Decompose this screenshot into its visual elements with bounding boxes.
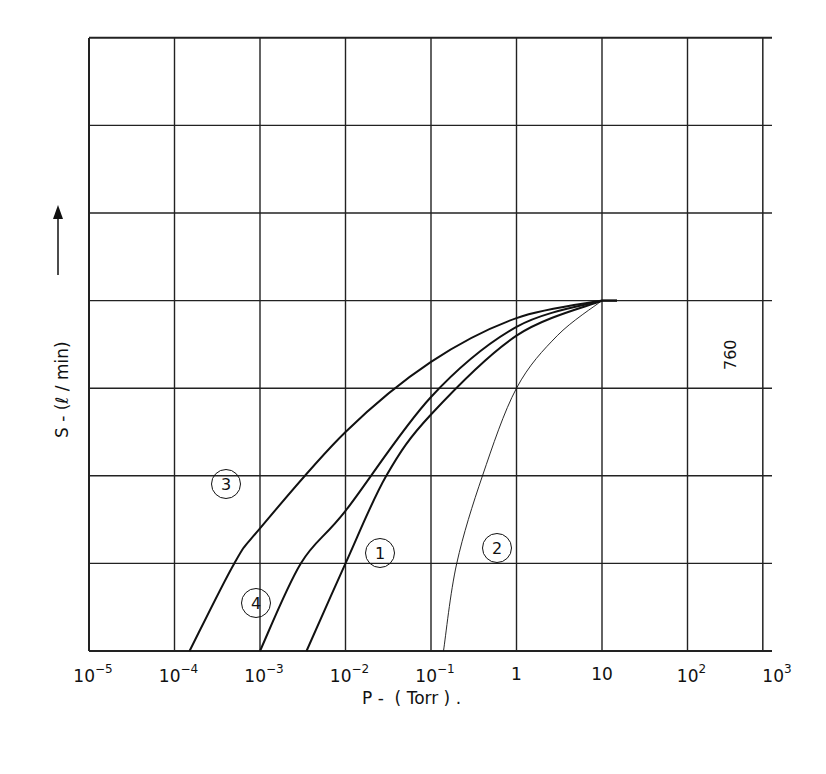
grid-lines — [89, 38, 772, 651]
curve-label-3: 3 — [211, 469, 241, 499]
x-tick-label: 1 — [511, 664, 522, 684]
x-tick-label: 10−2 — [330, 664, 369, 686]
chart-plot-area — [0, 0, 826, 774]
x-axis-label: P - ( Torr ) . — [362, 688, 461, 708]
curve-label-4: 4 — [241, 588, 271, 618]
x-tick-label: 10−1 — [415, 664, 454, 686]
y-axis-arrow-icon — [50, 205, 66, 275]
annotation-760: 760 — [721, 339, 740, 370]
x-tick-label: 10 — [591, 664, 613, 684]
curve-label-3-text: 3 — [221, 475, 231, 494]
curve-label-2: 2 — [482, 533, 512, 563]
curve-label-1: 1 — [365, 538, 395, 568]
y-axis-label: S - (ℓ / min) — [52, 341, 72, 438]
x-tick-label: 103 — [762, 664, 791, 686]
x-tick-label: 10−5 — [73, 664, 112, 686]
curve-label-1-text: 1 — [375, 544, 385, 563]
x-tick-label: 102 — [677, 664, 706, 686]
x-tick-label: 10−4 — [159, 664, 198, 686]
curve-label-2-text: 2 — [492, 539, 502, 558]
curve-label-4-text: 4 — [251, 594, 261, 613]
x-tick-label: 10−3 — [244, 664, 283, 686]
